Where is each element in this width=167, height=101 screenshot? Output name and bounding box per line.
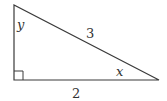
right-triangle-diagram: y 3 x 2 xyxy=(0,0,167,101)
angle-y-label: y xyxy=(16,17,25,32)
hypotenuse-label: 3 xyxy=(86,26,94,41)
right-angle-marker xyxy=(14,71,23,80)
triangle xyxy=(14,5,159,80)
angle-x-label: x xyxy=(116,64,124,79)
base-label: 2 xyxy=(72,86,80,101)
